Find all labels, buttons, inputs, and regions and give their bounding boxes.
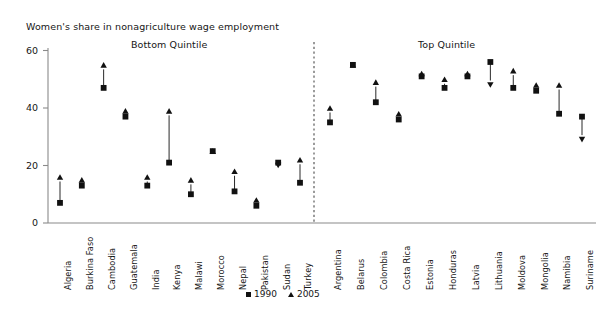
xtick-label: Namibia	[562, 255, 572, 290]
marker-2005	[396, 111, 402, 117]
xtick-label: Mongolia	[540, 252, 550, 290]
marker-1990	[487, 59, 493, 65]
marker-1990	[232, 188, 238, 194]
marker-1990	[253, 203, 259, 209]
xtick-label: Argentina	[333, 249, 343, 290]
marker-2005	[510, 68, 516, 74]
xtick-label: Belarus	[356, 259, 366, 290]
xtick-label: Honduras	[448, 250, 458, 290]
marker-2005	[166, 108, 172, 114]
ytick-40: 40	[16, 102, 38, 113]
marker-2005	[327, 105, 333, 111]
marker-2005	[579, 137, 585, 143]
legend-label-2005: 2005	[297, 289, 320, 299]
xtick-label: Estonia	[425, 259, 435, 290]
xtick-label: Colombia	[379, 251, 389, 290]
chart-legend: 1990 2005	[246, 289, 320, 299]
xtick-label: Pakistan	[260, 255, 270, 290]
marker-2005	[57, 174, 63, 180]
marker-2005	[100, 62, 106, 68]
marker-1990	[144, 183, 150, 189]
marker-1990	[556, 111, 562, 117]
marker-1990	[533, 88, 539, 94]
marker-1990	[101, 85, 107, 91]
marker-2005	[231, 168, 237, 174]
xtick-label: Latvia	[471, 264, 481, 290]
xtick-label: Kenya	[172, 264, 182, 290]
xtick-label: Algeria	[63, 261, 73, 290]
chart-container: Women's share in nonagriculture wage emp…	[0, 0, 609, 324]
marker-1990	[57, 200, 63, 206]
marker-1990	[123, 114, 129, 120]
marker-2005	[188, 177, 194, 183]
xtick-label: Turkey	[303, 263, 313, 290]
xtick-label: Morocco	[216, 255, 226, 290]
marker-2005	[441, 76, 447, 82]
xtick-label: Lithuania	[494, 251, 504, 290]
marker-1990	[297, 180, 303, 186]
ytick-0: 0	[16, 217, 38, 228]
xtick-label: Guatemala	[129, 244, 139, 290]
marker-1990	[166, 160, 172, 166]
marker-1990	[327, 119, 333, 125]
xtick-label: Cambodia	[107, 248, 117, 290]
xtick-label: Moldova	[517, 255, 527, 290]
axes	[43, 48, 596, 223]
marker-1990	[442, 85, 448, 91]
marker-1990	[373, 99, 379, 105]
marker-2005	[297, 157, 303, 163]
xtick-label: Costa Rica	[402, 246, 412, 290]
marker-1990	[510, 85, 516, 91]
marker-2005	[79, 177, 85, 183]
triangle-marker-icon	[288, 292, 294, 297]
marker-2005	[556, 82, 562, 88]
square-marker-icon	[246, 292, 251, 297]
marker-1990	[188, 191, 194, 197]
legend-entry-1990: 1990	[246, 289, 277, 299]
xtick-label: Malawi	[194, 261, 204, 290]
marker-2005	[253, 197, 259, 203]
marker-2005	[533, 82, 539, 88]
xtick-label: India	[151, 269, 161, 290]
xtick-label: Burkina Faso	[85, 237, 95, 290]
marker-2005	[373, 79, 379, 85]
legend-label-1990: 1990	[254, 289, 277, 299]
legend-entry-2005: 2005	[288, 289, 320, 299]
data-markers	[57, 59, 585, 209]
xtick-label: Sudan	[282, 264, 292, 290]
marker-1990	[396, 117, 402, 123]
ytick-60: 60	[16, 45, 38, 56]
ytick-20: 20	[16, 160, 38, 171]
marker-2005	[144, 174, 150, 180]
marker-1990	[579, 114, 585, 120]
xtick-label: Nepal	[238, 266, 248, 290]
marker-1990	[79, 183, 85, 189]
marker-2005	[487, 82, 493, 88]
marker-2005	[122, 108, 128, 114]
xtick-label: Suriname	[585, 250, 595, 290]
